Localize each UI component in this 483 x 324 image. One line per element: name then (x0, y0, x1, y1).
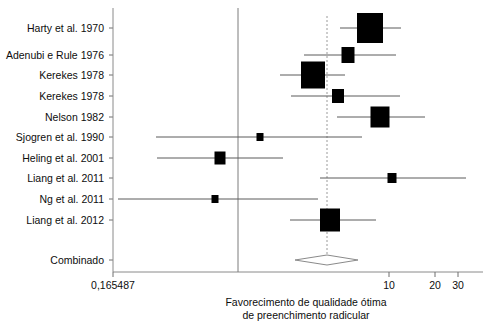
study-label: Nelson 1982 (45, 111, 104, 123)
study-label: Kerekes 1978 (39, 90, 104, 102)
study-label: Ng et al. 2011 (39, 193, 104, 205)
effect-size-marker (371, 107, 390, 128)
axis-caption-line: Favorecimento de qualidade ótima (225, 296, 386, 308)
effect-size-marker (388, 173, 397, 183)
study-label: Adenubi e Rule 1976 (6, 49, 104, 61)
study-label: Liang et al. 2012 (26, 214, 104, 226)
effect-size-marker (257, 133, 264, 141)
effect-size-marker (212, 195, 219, 203)
axis-caption-group: Favorecimento de qualidade ótimade preen… (225, 296, 386, 321)
effect-size-marker (301, 62, 325, 89)
study-label: Heling et al. 2001 (22, 152, 104, 164)
axis-caption-line: de preenchimento radicular (242, 309, 370, 321)
effect-size-marker (332, 89, 344, 103)
effect-size-marker (320, 209, 340, 232)
effect-size-marker (215, 152, 226, 165)
study-label: Sjogren et al. 1990 (16, 131, 104, 143)
effect-size-marker (342, 47, 355, 63)
study-label: Liang et al. 2011 (27, 172, 104, 184)
study-label: Harty et al. 1970 (27, 22, 104, 34)
forest-plot: Harty et al. 1970Adenubi e Rule 1976Kere… (0, 0, 483, 324)
study-label: Kerekes 1978 (39, 69, 104, 81)
x-tick-label: 10 (383, 279, 395, 291)
study-label: Combinado (50, 254, 104, 266)
effect-size-marker (357, 13, 383, 43)
x-tick-label: 20 (429, 279, 441, 291)
x-tick-label: 30 (452, 279, 464, 291)
x-tick-label: 0,165487 (91, 279, 135, 291)
